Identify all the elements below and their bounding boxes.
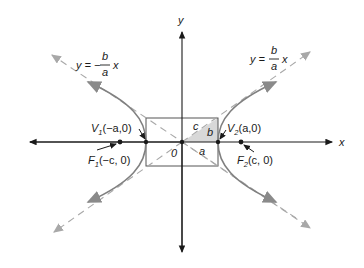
label-b: b xyxy=(207,126,213,138)
svg-text:y =: y = xyxy=(249,53,266,65)
vertex-v2-point xyxy=(216,140,220,144)
svg-text:F1(−c, 0): F1(−c, 0) xyxy=(88,154,130,169)
hyperbola-diagram: x y 0 c b a V1(−a,0) V2(a,0) F1(−c, 0) F… xyxy=(0,0,364,268)
svg-text:b: b xyxy=(271,44,277,56)
vertex-v2-label: V2(a,0) xyxy=(227,122,261,137)
focus-f1-label: F1(−c, 0) xyxy=(88,154,130,169)
f2-pointer xyxy=(244,145,254,152)
svg-text:x: x xyxy=(281,53,288,65)
label-a: a xyxy=(199,145,205,157)
svg-text:V1(−a,0): V1(−a,0) xyxy=(91,122,132,137)
svg-text:x: x xyxy=(112,59,119,71)
svg-text:a: a xyxy=(102,66,108,78)
origin-point xyxy=(180,140,184,144)
asymptote-positive-equation: y = b a x xyxy=(249,44,288,72)
focus-f2-point xyxy=(239,140,244,145)
vertex-v1-label: V1(−a,0) xyxy=(91,122,132,137)
svg-text:y = −: y = − xyxy=(75,59,101,71)
svg-text:a: a xyxy=(271,60,277,72)
svg-text:b: b xyxy=(102,50,108,62)
origin-label: 0 xyxy=(171,147,178,159)
v2-pointer xyxy=(220,130,226,139)
x-axis-label: x xyxy=(338,136,345,148)
asymptote-negative-equation: y = − b a x xyxy=(75,50,119,78)
svg-text:F2(c, 0): F2(c, 0) xyxy=(237,154,273,169)
hyperbola-left-branch-lower xyxy=(88,142,146,202)
y-axis-label: y xyxy=(177,14,185,26)
f1-pointer xyxy=(97,144,116,150)
vertex-v1-point xyxy=(144,140,148,144)
focus-f1-point xyxy=(118,140,123,145)
focus-f2-label: F2(c, 0) xyxy=(237,154,273,169)
label-c: c xyxy=(193,120,199,132)
svg-text:V2(a,0): V2(a,0) xyxy=(227,122,261,137)
